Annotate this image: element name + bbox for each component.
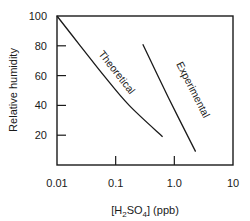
y-tick-label: 80 (35, 40, 47, 52)
plot-area: TheoreticalExperimental (57, 16, 213, 152)
x-tick-label: 0.1 (108, 177, 123, 189)
x-axis: 0.010.11.010 (46, 156, 239, 189)
y-tick-label: 40 (35, 99, 47, 111)
y-axis: 20406080100 (29, 10, 66, 141)
x-tick-label: 1.0 (167, 177, 182, 189)
series-experimental-line (143, 44, 196, 151)
chart: 0.010.11.010 20406080100 TheoreticalExpe… (0, 0, 250, 221)
x-tick-label: 10 (227, 177, 239, 189)
y-axis-label: Relative humidity (7, 48, 19, 132)
series-theoretical-line (57, 16, 163, 137)
x-axis-label: [H2SO4] (ppb) (111, 204, 179, 219)
x-tick-label: 0.01 (46, 177, 67, 189)
series-experimental-label: Experimental (174, 59, 213, 119)
plot-frame (57, 16, 233, 165)
y-tick-label: 100 (29, 10, 47, 22)
series-theoretical-label: Theoretical (96, 48, 137, 96)
y-tick-label: 60 (35, 70, 47, 82)
y-tick-label: 20 (35, 129, 47, 141)
